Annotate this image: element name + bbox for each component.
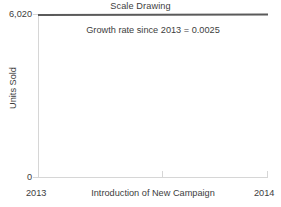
- y-axis-min-tick-label: 0: [27, 172, 32, 182]
- y-axis-min-tick-label-wrap: 0: [0, 165, 32, 185]
- x-axis-tick-2013: [38, 171, 39, 178]
- y-axis-max-tick-label-wrap: 6,020: [0, 0, 32, 20]
- x-axis-end-tick-label: 2014: [254, 188, 274, 198]
- y-axis-title: Units Sold: [8, 48, 18, 128]
- x-axis-line: [38, 177, 268, 178]
- scale-drawing-chart: Scale Drawing 6,020 0 Units Sold Growth …: [0, 0, 281, 207]
- x-axis-tick-2014: [267, 171, 268, 178]
- y-axis-max-tick-label: 6,020: [9, 9, 32, 19]
- units-sold-data-line: [38, 14, 268, 16]
- growth-rate-annotation: Growth rate since 2013 = 0.0025: [38, 25, 268, 35]
- chart-title: Scale Drawing: [0, 0, 281, 13]
- x-axis-tick-mid: [162, 171, 163, 178]
- x-axis-title: Introduction of New Campaign: [38, 188, 268, 198]
- y-axis-line: [38, 14, 39, 177]
